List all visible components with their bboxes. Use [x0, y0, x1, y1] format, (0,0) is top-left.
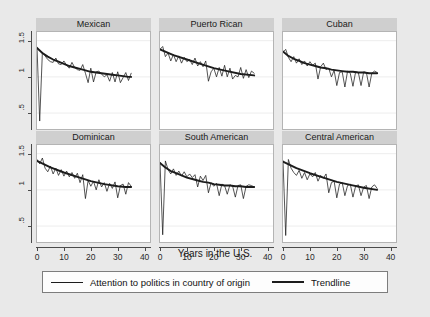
panel-dominican: Dominican — [36, 131, 151, 243]
panel-title: Cuban — [282, 18, 397, 31]
attention-series-path — [283, 49, 377, 87]
plot-area — [282, 31, 397, 130]
legend-swatch-thick-line — [272, 281, 304, 283]
plot-svg — [160, 145, 273, 242]
trendline-path — [37, 48, 131, 77]
trendline-path — [160, 163, 254, 187]
legend-label-attention: Attention to politics in country of orig… — [90, 277, 250, 288]
plot-svg — [283, 145, 396, 242]
panel-mexican: Mexican — [36, 18, 151, 130]
plot-area — [282, 144, 397, 243]
y-tick-label: 1 — [17, 181, 26, 185]
legend-entry-trendline: Trendline — [272, 277, 350, 288]
panel-title: Dominican — [36, 131, 151, 144]
plot-area — [159, 31, 274, 130]
legend-label-trendline: Trendline — [311, 277, 350, 288]
legend-swatch-thin-line — [51, 282, 83, 283]
panel-south-american: South American — [159, 131, 274, 243]
plot-area — [36, 31, 151, 130]
panel-grid: Mexican.511.5Puerto RicanCubanDominican.… — [0, 0, 430, 245]
plot-svg — [37, 32, 150, 129]
y-tick-mark — [28, 41, 31, 42]
y-tick-label: .5 — [17, 217, 26, 224]
plot-svg — [283, 32, 396, 129]
y-tick-label: 1 — [17, 68, 26, 72]
y-tick-mark — [28, 226, 31, 227]
y-tick-mark — [28, 154, 31, 155]
attention-series-path — [160, 46, 254, 81]
panel-puerto-rican: Puerto Rican — [159, 18, 274, 130]
panel-title: South American — [159, 131, 274, 144]
legend-entry-attention: Attention to politics in country of orig… — [51, 277, 250, 288]
panel-cuban: Cuban — [282, 18, 397, 130]
y-tick-mark — [28, 77, 31, 78]
y-tick-label: .5 — [17, 104, 26, 111]
panel-title: Central American — [282, 131, 397, 144]
y-tick-mark — [28, 113, 31, 114]
chart-legend: Attention to politics in country of orig… — [42, 271, 388, 293]
panel-title: Mexican — [36, 18, 151, 31]
trendline-path — [283, 162, 377, 190]
y-tick-mark — [28, 190, 31, 191]
panel-central-american: Central American — [282, 131, 397, 243]
y-axis-line — [31, 31, 32, 130]
plot-area — [36, 144, 151, 243]
plot-svg — [37, 145, 150, 242]
x-axis-label: Years in the U.S. — [0, 248, 430, 259]
figure-panel-chart: Mexican.511.5Puerto RicanCubanDominican.… — [0, 0, 430, 317]
panel-title: Puerto Rican — [159, 18, 274, 31]
y-axis-line — [31, 144, 32, 243]
y-tick-label: 1.5 — [17, 145, 26, 156]
plot-svg — [160, 32, 273, 129]
trendline-path — [37, 161, 131, 187]
plot-area — [159, 144, 274, 243]
y-tick-label: 1.5 — [17, 32, 26, 43]
attention-series-path — [283, 159, 377, 235]
